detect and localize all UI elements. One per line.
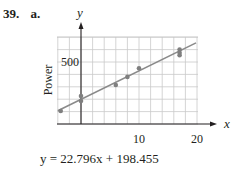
data-point: [177, 53, 182, 58]
y-tick-label: 500: [61, 55, 79, 69]
chart-grid: [57, 37, 198, 124]
data-point: [58, 109, 63, 114]
scatter-chart: 1020500ForcePowerxy: [0, 0, 237, 150]
data-point: [125, 75, 130, 80]
x-axis-symbol: x: [223, 116, 230, 131]
x-axis-arrow-icon: [210, 122, 217, 127]
y-axis-title: Power: [41, 65, 55, 96]
data-point: [79, 94, 84, 99]
x-tick-label: 10: [133, 132, 145, 146]
regression-equation: y = 22.796x + 198.455: [40, 151, 159, 167]
x-tick-label: 20: [191, 132, 203, 146]
x-axis-title: Force: [126, 149, 153, 150]
equation-text: y = 22.796x + 198.455: [40, 151, 159, 166]
y-axis-symbol: y: [75, 5, 83, 20]
y-axis-arrow-icon: [79, 22, 84, 29]
data-point: [114, 83, 119, 88]
data-point: [137, 66, 142, 71]
data-point: [79, 99, 84, 104]
